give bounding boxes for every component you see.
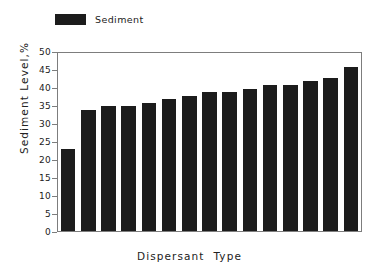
bar (202, 92, 217, 231)
bar (283, 85, 298, 231)
bar (303, 81, 318, 231)
bar (142, 103, 157, 231)
x-axis-title: Dispersant Type (0, 250, 379, 262)
bar (243, 89, 258, 231)
bar-chart: Sediment 05101520253035404550 Sediment L… (0, 0, 379, 277)
y-axis-title: Sediment Level,% (18, 28, 30, 168)
bar (222, 92, 237, 231)
bar (182, 96, 197, 231)
bar (61, 149, 76, 231)
bar (323, 78, 338, 231)
bar (344, 67, 359, 231)
bar (263, 85, 278, 231)
bar (121, 106, 136, 231)
legend-swatch-icon (55, 14, 86, 25)
chart-legend: Sediment (55, 14, 144, 25)
bar (101, 106, 116, 231)
bars-layer (58, 53, 361, 231)
plot-area (57, 52, 362, 232)
legend-label-sediment: Sediment (95, 14, 144, 25)
bar (81, 110, 96, 231)
bar (162, 99, 177, 231)
